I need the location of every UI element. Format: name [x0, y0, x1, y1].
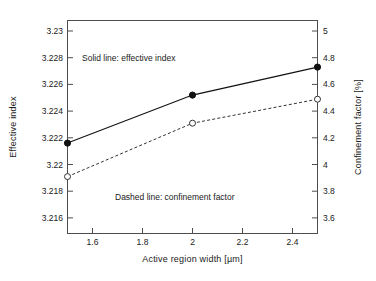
- data-point-confinement-3: [315, 96, 321, 102]
- annotation-dashed-line: Dashed line: confinement factor: [115, 192, 235, 202]
- right-tick-label: 4.6: [323, 79, 335, 89]
- x-tick-label: 1.6: [87, 237, 99, 247]
- x-tick-label: 2.4: [287, 237, 299, 247]
- y2-axis-title: Confinement factor [%]: [353, 79, 363, 175]
- x-tick-label: 2: [190, 237, 195, 247]
- right-tick-label: 4: [323, 160, 328, 170]
- data-point-effective-index-2: [189, 92, 195, 98]
- chart-figure: 3.23 3.228 3.226 3.224 3.222 3.22 3.218 …: [0, 0, 376, 281]
- left-tick-label: 3.23: [46, 26, 63, 36]
- data-point-confinement-1: [65, 174, 71, 180]
- x-axis-title: Active region width [µm]: [142, 254, 243, 264]
- data-point-confinement-2: [190, 120, 196, 126]
- left-tick-label: 3.216: [42, 213, 64, 223]
- annotation-solid-line: Solid line: effective index: [82, 53, 176, 63]
- data-point-effective-index-3: [314, 64, 320, 70]
- left-tick-label: 3.228: [42, 53, 64, 63]
- left-tick-label: 3.222: [42, 133, 64, 143]
- left-tick-label: 3.218: [42, 186, 64, 196]
- left-tick-label: 3.22: [46, 160, 63, 170]
- right-tick-label: 4.4: [323, 106, 335, 116]
- y-axis-title: Effective index: [8, 96, 18, 158]
- left-tick-label: 3.224: [42, 106, 64, 116]
- left-tick-label: 3.226: [42, 79, 64, 89]
- right-tick-label: 4.2: [323, 133, 335, 143]
- right-tick-label: 3.6: [323, 213, 335, 223]
- right-tick-label: 5: [323, 26, 328, 36]
- data-point-effective-index-1: [64, 140, 70, 146]
- x-tick-label: 2.2: [237, 237, 249, 247]
- right-tick-label: 4.8: [323, 53, 335, 63]
- right-tick-label: 3.8: [323, 186, 335, 196]
- x-tick-label: 1.8: [137, 237, 149, 247]
